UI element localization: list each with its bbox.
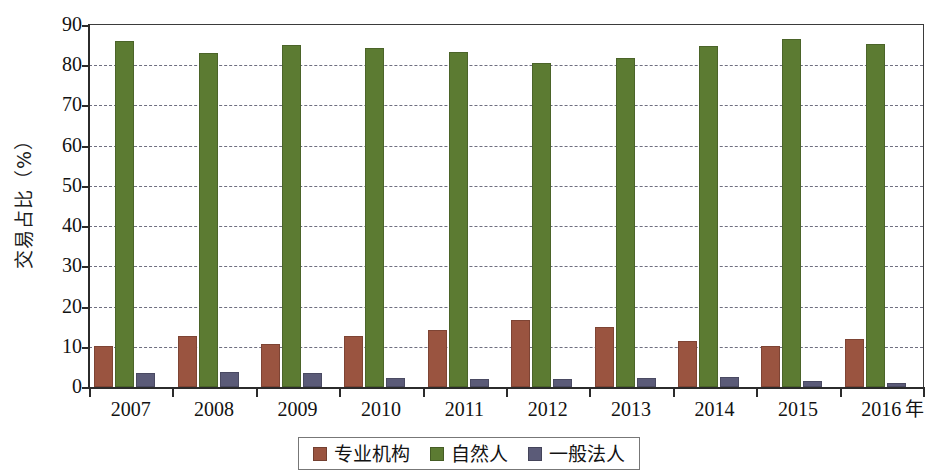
x-tick-label-2007: 2007 [86,398,176,420]
x-tick-mark-4 [423,388,425,397]
legend-item-自然人[interactable]: 自然人 [430,444,508,464]
x-tick-label-2010: 2010 [336,398,426,420]
y-tick-label-10: 10 [40,336,82,356]
bar-2011-自然人 [449,52,468,387]
bar-2008-专业机构 [178,336,197,387]
x-tick-mark-7 [673,388,675,397]
y-tick-label-70: 70 [40,94,82,114]
bar-2008-一般法人 [220,372,239,387]
y-tick-value: 10 [46,336,82,356]
bar-group-2008 [172,25,255,387]
x-tick-label-2013: 2013 [586,398,676,420]
bar-2013-专业机构 [595,327,614,387]
y-tick-label-20: 20 [40,296,82,316]
bar-2010-专业机构 [344,336,363,387]
bar-2010-自然人 [365,48,384,387]
x-tick-mark-9 [840,388,842,397]
bar-chart: 交易占比（%） 0102030405060708090 200720082009… [0,0,941,472]
legend-label: 一般法人 [549,444,625,464]
bar-2015-自然人 [782,39,801,387]
x-tick-label-2014: 2014 [670,398,760,420]
legend-swatch-icon [313,447,327,461]
legend-label: 专业机构 [334,444,410,464]
bar-2012-专业机构 [511,320,530,387]
legend-swatch-icon [430,447,444,461]
y-tick-value: 70 [46,94,82,114]
bar-2011-专业机构 [428,330,447,387]
y-tick-value: 0 [46,376,82,396]
bar-group-2011 [423,25,506,387]
bar-group-2007 [89,25,172,387]
y-tick-value: 20 [46,296,82,316]
bar-2012-一般法人 [553,379,572,387]
bar-2007-一般法人 [136,373,155,387]
y-tick-label-80: 80 [40,54,82,74]
bar-group-2012 [506,25,589,387]
bar-2007-自然人 [115,41,134,387]
y-tick-value: 90 [46,14,82,34]
y-tick-value: 50 [46,175,82,195]
legend-swatch-icon [528,447,542,461]
bar-2008-自然人 [199,53,218,387]
x-tick-label-2015: 2015 [753,398,843,420]
y-tick-label-50: 50 [40,175,82,195]
bar-2015-一般法人 [803,381,822,387]
bar-2007-专业机构 [94,346,113,387]
bar-group-2009 [256,25,339,387]
x-tick-label-2009: 2009 [253,398,343,420]
bar-2014-一般法人 [720,377,739,387]
y-tick-label-30: 30 [40,255,82,275]
legend-item-专业机构[interactable]: 专业机构 [313,444,410,464]
x-tick-mark-1 [172,388,174,397]
x-tick-label-2011: 2011 [419,398,509,420]
legend-item-一般法人[interactable]: 一般法人 [528,444,625,464]
y-tick-value: 80 [46,54,82,74]
x-tick-mark-3 [339,388,341,397]
x-axis-unit-label: 年 [905,398,924,420]
bar-2016-自然人 [866,44,885,387]
bar-2014-自然人 [699,46,718,387]
bar-group-2016 [840,25,923,387]
bar-2009-专业机构 [261,344,280,387]
bar-2015-专业机构 [761,346,780,387]
y-tick-value: 60 [46,135,82,155]
x-tick-label-2008: 2008 [169,398,259,420]
y-tick-value: 40 [46,215,82,235]
legend-label: 自然人 [451,444,508,464]
x-tick-label-2012: 2012 [503,398,593,420]
bar-2010-一般法人 [386,378,405,387]
bar-2009-自然人 [282,45,301,387]
bar-2009-一般法人 [303,373,322,387]
bar-group-2010 [339,25,422,387]
x-tick-mark-5 [506,388,508,397]
bar-group-2014 [673,25,756,387]
x-tick-mark-0 [89,388,91,397]
bars-layer [89,25,923,387]
y-tick-label-0: 0 [40,376,82,396]
bar-2011-一般法人 [470,379,489,387]
x-tick-mark-8 [756,388,758,397]
bar-2014-专业机构 [678,341,697,387]
x-tick-mark-6 [589,388,591,397]
bar-group-2015 [756,25,839,387]
chart-legend: 专业机构自然人一般法人 [298,437,640,470]
y-tick-label-90: 90 [40,14,82,34]
bar-2012-自然人 [532,63,551,387]
x-tick-mark-10 [923,388,925,397]
y-axis-title: 交易占比（%） [9,100,36,300]
bar-2016-专业机构 [845,339,864,387]
bar-group-2013 [589,25,672,387]
y-tick-label-40: 40 [40,215,82,235]
bar-2013-自然人 [616,58,635,387]
x-tick-mark-2 [256,388,258,397]
bar-2016-一般法人 [887,383,906,387]
y-tick-label-60: 60 [40,135,82,155]
bar-2013-一般法人 [637,378,656,387]
y-tick-value: 30 [46,255,82,275]
